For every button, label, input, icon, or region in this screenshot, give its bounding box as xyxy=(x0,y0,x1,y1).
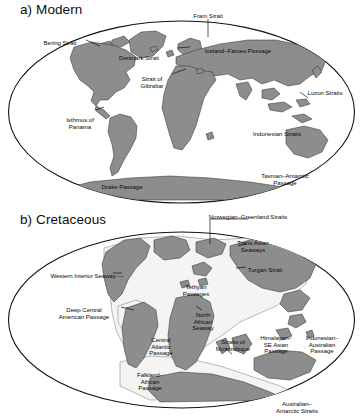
figure-two-panel-world-maps: a) Modern xyxy=(0,0,363,420)
label-turgan-strait: Turgan Strait xyxy=(248,267,282,274)
label-straits-of-mozambique: Straits of Mozambique xyxy=(216,339,250,352)
label-tasman-antarctic-passage: Tasman–Antarctic Passage xyxy=(261,173,309,186)
label-indonesian-australian-passage: Indonesian– Australian Passage xyxy=(306,335,339,355)
label-luzon-straits: Luzon Straits xyxy=(308,90,343,97)
panel-modern: a) Modern xyxy=(0,0,363,210)
label-tethyan-passages: Tethyan Passages xyxy=(183,284,209,297)
label-indonesian-straits: Indonesian Straits xyxy=(253,131,301,138)
panel-cretaceous: b) Cretaceous xyxy=(0,210,363,420)
label-trans-asian-seaways: Trans Asian Seaways xyxy=(237,240,268,253)
label-himalayan-se-asian-passage: Himalayan– SE Asian Passage xyxy=(260,335,292,355)
label-western-interior-seaway: Western Interior Seaway — xyxy=(50,273,123,280)
label-norwegian-greenland-straits: Norwegian–Greenland Straits xyxy=(209,214,288,221)
label-fram-strait: Fram Strait xyxy=(193,13,223,20)
label-denmark-strait: Denmark Strait xyxy=(119,55,159,62)
label-iceland-faroes-passage: Iceland–Faroes Passage xyxy=(205,48,271,55)
label-north-african-seaway: North African Seaway xyxy=(192,312,213,332)
label-drake-passage: Drake Passage xyxy=(101,184,142,191)
map-cretaceous xyxy=(0,210,363,420)
label-bering-strait: Bering Strait xyxy=(44,40,77,47)
label-isthmus-of-panama: Isthmus of Panama xyxy=(66,117,94,130)
label-falkland-african-passage: Falkland– African Passage xyxy=(137,372,163,392)
label-strait-of-gibraltar: Strait of Gibraltar xyxy=(141,76,164,89)
label-central-atlantic-passage: Central Atlantic Passage xyxy=(149,337,172,357)
label-australian-antarctic-straits: Australian– Antarctic Straits xyxy=(276,401,318,414)
label-deep-central-american-passage: Deep Central American Passage xyxy=(59,307,109,320)
